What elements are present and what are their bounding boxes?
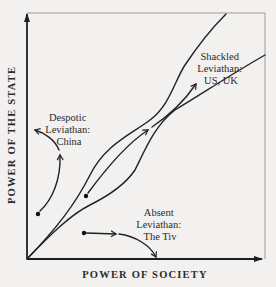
shackled-label: Shackled Leviathan: US, UK — [197, 51, 245, 86]
despotic-path-arrow-1 — [40, 155, 60, 211]
shackled-path-arrow-2 — [152, 84, 196, 127]
despotic-label: Despotic Leviathan: China — [45, 112, 93, 147]
despotic-start-dot — [36, 212, 40, 216]
leviathan-diagram: Despotic Leviathan: China Shackled Levia… — [0, 0, 276, 287]
shackled-start-dot — [84, 194, 88, 198]
y-axis-label: POWER OF THE STATE — [6, 66, 17, 204]
absent-path-arrow-1 — [86, 233, 116, 234]
absent-label: Absent Leviathan: The Tiv — [136, 207, 184, 242]
x-axis-label: POWER OF SOCIETY — [82, 269, 208, 280]
